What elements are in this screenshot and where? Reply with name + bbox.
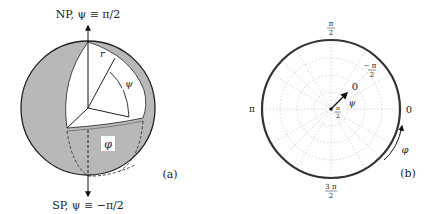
svg-text:π: π <box>336 104 340 111</box>
phi-label: φ <box>401 144 408 155</box>
svg-text:2: 2 <box>329 29 333 37</box>
north-pole-label: NP, ψ ≡ π/2 <box>56 8 121 21</box>
tick-right: 0 <box>406 104 412 115</box>
panel-b-caption: (b) <box>400 167 416 180</box>
svg-text:π: π <box>329 20 334 28</box>
figure: NP, ψ ≡ π/2 SP, ψ ≡ −π/2 r ψ φ (a) <box>0 0 433 214</box>
svg-text:2: 2 <box>370 71 374 79</box>
arrow-tip-label: 0 <box>352 81 358 92</box>
tick-left: π <box>249 104 255 114</box>
panel-a-caption: (a) <box>162 168 177 181</box>
inner-minus-label: − π 2 <box>364 62 377 79</box>
longitude-label: φ <box>104 138 112 151</box>
tick-top: π 2 <box>327 20 335 37</box>
latitude-label: ψ <box>125 78 133 89</box>
panel-a-sphere: NP, ψ ≡ π/2 SP, ψ ≡ −π/2 r ψ φ (a) <box>21 8 178 212</box>
svg-text:3 π: 3 π <box>325 183 337 191</box>
svg-text:− π: − π <box>364 62 377 70</box>
south-pole-label: SP, ψ ≡ −π/2 <box>52 199 124 212</box>
tick-bottom: 3 π 2 <box>325 183 337 200</box>
psi-label: ψ <box>348 98 356 108</box>
svg-text:2: 2 <box>329 192 333 200</box>
panel-b-polar: π 2 π 0 3 π 2 π 2 − π 2 0 ψ φ (b) <box>249 20 416 200</box>
svg-text:2: 2 <box>336 112 340 119</box>
center-label: π 2 <box>335 104 341 119</box>
phi-arrow <box>384 126 402 160</box>
